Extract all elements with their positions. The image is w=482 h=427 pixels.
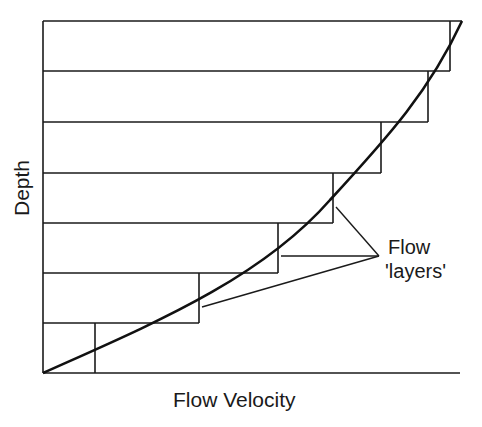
annotation-pointers bbox=[202, 207, 379, 307]
pointer-line-upper bbox=[336, 207, 379, 256]
velocity-profile-diagram: Flow 'layers' Flow Velocity Depth bbox=[0, 0, 482, 427]
layer-steps bbox=[95, 21, 450, 373]
velocity-profile-curve bbox=[43, 21, 462, 373]
x-axis-label: Flow Velocity bbox=[173, 388, 296, 411]
annotation-line-1: Flow bbox=[388, 236, 431, 258]
annotation-line-2: 'layers' bbox=[385, 260, 446, 282]
y-axis-label: Depth bbox=[10, 160, 33, 216]
